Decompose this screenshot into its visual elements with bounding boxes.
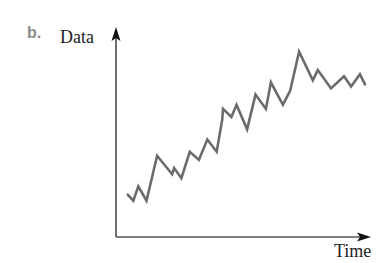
- data-series-line: [128, 52, 365, 201]
- axes: [112, 27, 372, 242]
- line-chart: [0, 0, 380, 263]
